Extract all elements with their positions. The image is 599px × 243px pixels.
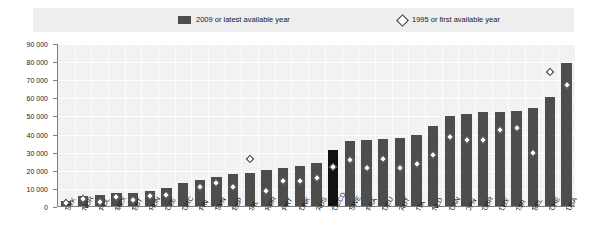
y-axis-tick-label: 20 000 — [27, 167, 48, 174]
y-axis-tick-label: 70 000 — [27, 77, 48, 84]
legend-item-bar-series: 2009 or latest available year — [178, 8, 290, 32]
legend-label-diamond-series: 1995 or first available year — [412, 16, 500, 24]
bar-column[interactable] — [128, 44, 138, 207]
y-axis-tick-label: 10 000 — [27, 185, 48, 192]
y-axis-tick-label: 0 — [44, 204, 48, 211]
x-axis-labels: SVKNORPOLMEXESTHUNCZEGRCFINSVNESPIRLKORP… — [57, 208, 574, 243]
bar-column[interactable] — [395, 44, 405, 207]
diamond-swatch-icon — [396, 14, 409, 27]
vertical-gridline — [575, 44, 576, 207]
legend-item-diamond-series: 1995 or first available year — [398, 8, 500, 32]
chart-legend: 2009 or latest available year 1995 or fi… — [33, 8, 574, 32]
bar-column[interactable] — [445, 44, 455, 207]
bar-column[interactable] — [61, 44, 71, 207]
bar-column[interactable] — [178, 44, 188, 207]
bar[interactable] — [478, 112, 488, 207]
bar-column[interactable] — [378, 44, 388, 207]
y-axis-tick-label: 30 000 — [27, 149, 48, 156]
bar-column[interactable] — [328, 44, 338, 207]
bar-column[interactable] — [161, 44, 171, 207]
bar-column[interactable] — [461, 44, 471, 207]
y-axis-tick-label: 60 000 — [27, 95, 48, 102]
bar-column[interactable] — [245, 44, 255, 207]
y-axis-tick-label: 40 000 — [27, 131, 48, 138]
bar-column[interactable] — [561, 44, 571, 207]
y-axis-tick-label: 50 000 — [27, 113, 48, 120]
plot-area — [57, 44, 575, 207]
legend-label-bar-series: 2009 or latest available year — [196, 16, 290, 24]
bar-column[interactable] — [528, 44, 538, 207]
bar-column[interactable] — [261, 44, 271, 207]
bar[interactable] — [445, 116, 455, 207]
bar-column[interactable] — [478, 44, 488, 207]
bar-column[interactable] — [345, 44, 355, 207]
y-axis-tick-label: 80 000 — [27, 59, 48, 66]
bar-column[interactable] — [428, 44, 438, 207]
bar-column[interactable] — [111, 44, 121, 207]
y-axis-tick-label: 90 000 — [27, 41, 48, 48]
bar-column[interactable] — [78, 44, 88, 207]
bar[interactable] — [411, 135, 421, 207]
chart-figure: 2009 or latest available year 1995 or fi… — [0, 0, 599, 243]
bar-column[interactable] — [145, 44, 155, 207]
y-axis: 010 00020 00030 00040 00050 00060 00070 … — [0, 44, 57, 208]
bar-column[interactable] — [411, 44, 421, 207]
bar[interactable] — [428, 126, 438, 207]
bar[interactable] — [545, 97, 555, 207]
bar-series-container — [58, 44, 575, 207]
bar-column[interactable] — [311, 44, 321, 207]
bar[interactable] — [528, 108, 538, 207]
bar-column[interactable] — [361, 44, 371, 207]
bar-swatch-icon — [178, 16, 191, 24]
bar-column[interactable] — [95, 44, 105, 207]
bar[interactable] — [461, 114, 471, 207]
